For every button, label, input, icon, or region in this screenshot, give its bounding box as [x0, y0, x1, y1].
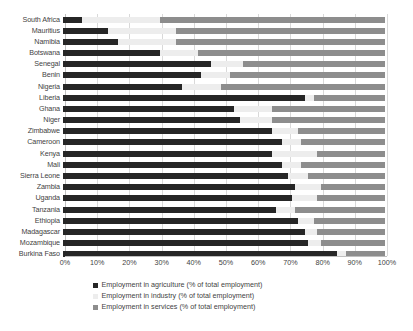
category-label: Benin [0, 71, 63, 79]
bar-track [63, 36, 385, 47]
stacked-bar [63, 17, 385, 23]
x-tick-label: 30% [154, 258, 168, 268]
bar-track [63, 115, 385, 126]
stacked-bar [63, 139, 385, 145]
bar-segment [298, 128, 385, 134]
x-tick-label: 70% [283, 258, 297, 268]
legend-swatch-icon [93, 294, 98, 299]
bar-segment [317, 151, 385, 157]
category-label: Mozambique [0, 239, 63, 247]
bar-row: Mali [0, 159, 413, 170]
bar-segment [288, 173, 307, 179]
plot-area: South AfricaMauritiusNamibiaBotswanaSene… [0, 0, 413, 268]
x-tick-label: 50% [219, 258, 233, 268]
bar-track [63, 182, 385, 193]
bar-segment [63, 173, 288, 179]
bar-track [63, 14, 385, 25]
bar-segment [63, 28, 108, 34]
x-axis-line [65, 256, 387, 257]
bar-row: Uganda [0, 193, 413, 204]
bar-segment [63, 72, 201, 78]
bar-segment [63, 128, 272, 134]
bar-segment [321, 184, 385, 190]
bar-segment [63, 117, 240, 123]
bar-track [63, 159, 385, 170]
category-label: Madagascar [0, 228, 63, 236]
bar-row: Kenya [0, 148, 413, 159]
bar-segment [276, 207, 295, 213]
bar-segment [301, 139, 385, 145]
category-label: Sierra Leone [0, 172, 63, 180]
legend-swatch-icon [93, 283, 98, 288]
x-tick-label: 60% [251, 258, 265, 268]
category-label: Cameroon [0, 138, 63, 146]
bar-row: Benin [0, 70, 413, 81]
bar-rows: South AfricaMauritiusNamibiaBotswanaSene… [0, 14, 413, 260]
stacked-bar [63, 106, 385, 112]
bar-track [63, 226, 385, 237]
bar-segment [160, 50, 199, 56]
category-label: Kenya [0, 150, 63, 158]
bar-track [63, 103, 385, 114]
bar-segment [63, 162, 282, 168]
bar-segment [63, 50, 160, 56]
stacked-bar [63, 95, 385, 101]
stacked-bar-chart: South AfricaMauritiusNamibiaBotswanaSene… [0, 0, 413, 331]
legend-item: Employment in industry (% of total emplo… [93, 291, 321, 301]
bar-segment [63, 106, 234, 112]
bar-segment [63, 229, 305, 235]
bar-track [63, 193, 385, 204]
bar-segment [63, 61, 211, 67]
bar-segment [298, 218, 314, 224]
x-tick-label: 90% [348, 258, 362, 268]
x-tick-label: 40% [187, 258, 201, 268]
bar-segment [63, 184, 295, 190]
x-tick-label: 80% [315, 258, 329, 268]
bar-segment [240, 117, 272, 123]
stacked-bar [63, 61, 385, 67]
bar-segment [221, 84, 385, 90]
legend-item: Employment in agriculture (% of total em… [93, 280, 321, 290]
bar-track [63, 25, 385, 36]
bar-row: Zambia [0, 182, 413, 193]
bar-row: Liberia [0, 92, 413, 103]
bar-segment [295, 207, 385, 213]
category-label: Niger [0, 116, 63, 124]
stacked-bar [63, 50, 385, 56]
bar-track [63, 81, 385, 92]
bar-row: Sierra Leone [0, 170, 413, 181]
stacked-bar [63, 72, 385, 78]
bar-row: Botswana [0, 48, 413, 59]
stacked-bar [63, 218, 385, 224]
bar-segment [305, 95, 315, 101]
bar-segment [282, 139, 301, 145]
stacked-bar [63, 173, 385, 179]
bar-segment [317, 195, 385, 201]
legend-label: Employment in services (% of total emplo… [102, 302, 256, 312]
bar-track [63, 170, 385, 181]
bar-segment [308, 173, 385, 179]
bar-row: Tanzania [0, 204, 413, 215]
bar-track [63, 92, 385, 103]
stacked-bar [63, 117, 385, 123]
bar-track [63, 48, 385, 59]
bar-row: South Africa [0, 14, 413, 25]
bar-track [63, 126, 385, 137]
bar-segment [282, 162, 301, 168]
bar-segment [198, 50, 385, 56]
bar-segment [314, 95, 385, 101]
bar-row: Nigeria [0, 81, 413, 92]
category-label: Mali [0, 161, 63, 169]
x-tick-label: 20% [122, 258, 136, 268]
bar-row: Cameroon [0, 137, 413, 148]
x-tick-label: 0% [60, 258, 70, 268]
bar-segment [301, 162, 385, 168]
category-label: Tanzania [0, 206, 63, 214]
legend-item: Employment in services (% of total emplo… [93, 302, 321, 312]
category-label: Nigeria [0, 83, 63, 91]
bar-row: Niger [0, 115, 413, 126]
bar-track [63, 59, 385, 70]
stacked-bar [63, 240, 385, 246]
category-label: Ethiopia [0, 217, 63, 225]
bar-segment [243, 61, 385, 67]
